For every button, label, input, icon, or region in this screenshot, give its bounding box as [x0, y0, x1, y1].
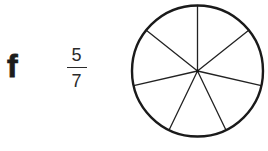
- sector-divider-line: [198, 71, 262, 86]
- sector-divider-line: [198, 71, 226, 130]
- sector-divider-line: [198, 30, 249, 71]
- sector-divider-line: [146, 30, 197, 71]
- sector-divider-line: [169, 71, 197, 130]
- circle-divided-into-sevenths: [0, 0, 268, 151]
- circle-center-point: [196, 70, 199, 73]
- sector-divider-line: [134, 71, 198, 86]
